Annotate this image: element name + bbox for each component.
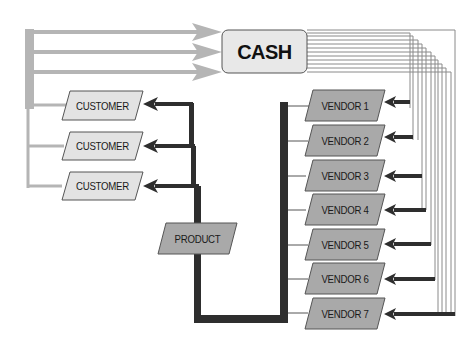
product-box [158, 223, 237, 254]
vendor-payment-arrows [384, 96, 455, 320]
vendor-boxes [305, 90, 385, 329]
cash-box [222, 30, 307, 73]
vendor-connector-lines [288, 106, 310, 313]
product-flow-lines [143, 97, 288, 323]
cash-flow-diagram [0, 0, 467, 349]
customer-boxes [62, 91, 143, 200]
